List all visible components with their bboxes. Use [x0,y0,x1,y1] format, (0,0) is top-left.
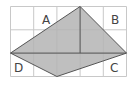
label-d: D [14,61,23,75]
label-b: B [111,13,119,27]
grid-diagram: A B D C [0,0,131,85]
label-c: C [110,61,118,75]
label-a: A [42,13,51,27]
